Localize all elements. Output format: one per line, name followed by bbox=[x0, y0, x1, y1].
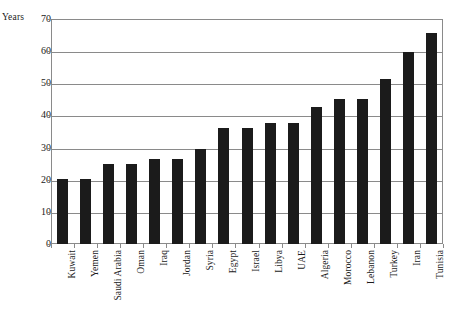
x-tick-label: Turkey bbox=[389, 250, 399, 278]
x-tick-label: Syria bbox=[205, 250, 215, 271]
bar bbox=[265, 123, 276, 244]
x-tick-label: Algeria bbox=[320, 250, 330, 279]
bar bbox=[334, 99, 345, 244]
x-tick-mark bbox=[189, 244, 190, 248]
x-tick-label: Jordan bbox=[182, 250, 192, 276]
x-tick-mark bbox=[351, 244, 352, 248]
x-tick-label: Kuwait bbox=[67, 250, 77, 279]
bar bbox=[195, 149, 206, 244]
y-tick-label: 20 bbox=[5, 175, 51, 185]
bar bbox=[311, 107, 322, 244]
bar bbox=[103, 164, 114, 244]
x-tick-mark bbox=[166, 244, 167, 248]
bar bbox=[426, 33, 437, 244]
x-tick-label: Yemen bbox=[90, 250, 100, 277]
bars-layer bbox=[51, 19, 443, 244]
x-tick-label: Iraq bbox=[159, 250, 169, 266]
bar bbox=[403, 52, 414, 244]
x-tick-mark bbox=[51, 244, 52, 248]
x-tick-label: Egypt bbox=[228, 250, 238, 273]
x-tick-mark bbox=[74, 244, 75, 248]
y-tick-label: 0 bbox=[5, 239, 51, 249]
x-tick-mark bbox=[397, 244, 398, 248]
x-tick-label: Iran bbox=[412, 250, 422, 266]
y-tick-label: 40 bbox=[5, 110, 51, 120]
bar bbox=[288, 123, 299, 244]
x-tick-mark bbox=[282, 244, 283, 248]
y-tick-label: 50 bbox=[5, 78, 51, 88]
x-tick-label: Israel bbox=[251, 250, 261, 272]
x-tick-label: Lebanon bbox=[366, 250, 376, 284]
x-tick-mark bbox=[328, 244, 329, 248]
x-tick-label: Saudi Arabia bbox=[113, 250, 123, 301]
x-tick-label: Tunisia bbox=[435, 250, 445, 279]
bar bbox=[172, 159, 183, 244]
x-tick-mark bbox=[420, 244, 421, 248]
x-tick-label: Libya bbox=[274, 250, 284, 273]
bar bbox=[218, 128, 229, 244]
x-tick-mark bbox=[259, 244, 260, 248]
x-tick-mark bbox=[212, 244, 213, 248]
x-tick-mark bbox=[374, 244, 375, 248]
x-tick-mark bbox=[97, 244, 98, 248]
x-tick-label: UAE bbox=[297, 250, 307, 270]
bar bbox=[357, 99, 368, 244]
y-tick-label: 30 bbox=[5, 143, 51, 153]
bar-chart: Years 706050403020100 KuwaitYemenSaudi A… bbox=[0, 0, 453, 318]
x-tick-mark bbox=[305, 244, 306, 248]
y-tick-label: 70 bbox=[5, 14, 51, 24]
x-tick-label: Oman bbox=[136, 250, 146, 274]
bar bbox=[242, 128, 253, 244]
y-axis: 706050403020100 bbox=[0, 19, 51, 244]
y-tick-label: 60 bbox=[5, 46, 51, 56]
bar bbox=[80, 179, 91, 244]
x-axis-labels: KuwaitYemenSaudi ArabiaOmanIraqJordanSyr… bbox=[51, 250, 443, 318]
x-axis-ticks bbox=[51, 244, 443, 249]
x-tick-mark bbox=[143, 244, 144, 248]
x-tick-mark bbox=[443, 244, 444, 248]
bar bbox=[149, 159, 160, 244]
x-tick-label: Morocco bbox=[343, 250, 353, 285]
x-tick-mark bbox=[120, 244, 121, 248]
bar bbox=[126, 164, 137, 244]
x-tick-mark bbox=[235, 244, 236, 248]
bar bbox=[57, 179, 68, 244]
bar bbox=[380, 79, 391, 244]
y-tick-label: 10 bbox=[5, 207, 51, 217]
